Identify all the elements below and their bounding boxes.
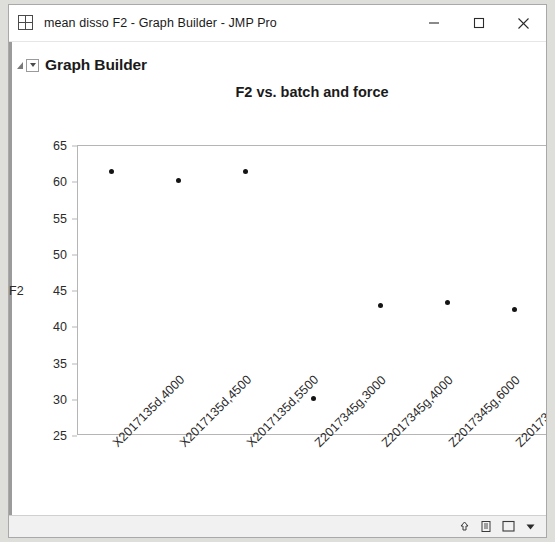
y-axis-tick-label: 30 xyxy=(53,393,67,407)
data-point[interactable] xyxy=(109,169,114,174)
y-axis-tick-label: 50 xyxy=(53,248,67,262)
y-axis-tick-mark xyxy=(72,291,77,292)
outline-header[interactable]: Graph Builder xyxy=(17,55,147,75)
y-axis-tick-label: 65 xyxy=(53,139,67,153)
y-axis-tick-label: 60 xyxy=(53,175,67,189)
y-axis-tick-mark xyxy=(72,254,77,255)
jmp-window: mean disso F2 - Graph Builder - JMP Pro xyxy=(8,4,547,538)
title-bar: mean disso F2 - Graph Builder - JMP Pro xyxy=(9,5,546,42)
outline-title: Graph Builder xyxy=(45,56,147,74)
maximize-button[interactable] xyxy=(456,5,501,41)
red-triangle-menu-icon[interactable] xyxy=(26,59,39,72)
page-icon[interactable] xyxy=(476,518,496,535)
minimize-button[interactable] xyxy=(411,5,456,41)
report-content: Graph Builder F2 vs. batch and force F2 … xyxy=(9,42,546,515)
chart-title: F2 vs. batch and force xyxy=(77,84,546,100)
dropdown-triangle-icon[interactable] xyxy=(520,518,540,535)
y-axis-tick-mark xyxy=(72,399,77,400)
y-axis: F2 253035404550556065 xyxy=(9,145,77,436)
y-axis-tick-mark xyxy=(72,218,77,219)
close-button[interactable] xyxy=(501,5,546,41)
y-axis-tick-mark xyxy=(72,363,77,364)
y-axis-title: F2 xyxy=(9,284,24,298)
status-bar xyxy=(9,515,546,537)
window-title: mean disso F2 - Graph Builder - JMP Pro xyxy=(44,16,277,30)
data-point[interactable] xyxy=(378,303,383,308)
data-point[interactable] xyxy=(311,396,316,401)
data-point[interactable] xyxy=(243,169,248,174)
data-point[interactable] xyxy=(445,300,450,305)
square-icon[interactable] xyxy=(498,518,518,535)
y-axis-tick-mark xyxy=(72,146,77,147)
data-point[interactable] xyxy=(176,178,181,183)
y-axis-tick-mark xyxy=(72,182,77,183)
y-axis-tick-label: 35 xyxy=(53,357,67,371)
data-table-icon xyxy=(18,15,34,31)
disclosure-triangle-icon[interactable] xyxy=(17,62,23,69)
y-axis-tick-label: 45 xyxy=(53,284,67,298)
x-axis: X2017135d,4000X2017135d,4500X2017135d,55… xyxy=(9,436,545,515)
y-axis-tick-label: 55 xyxy=(53,212,67,226)
outline-title-text: Graph Builder xyxy=(45,56,147,73)
y-axis-tick-mark xyxy=(72,327,77,328)
data-point[interactable] xyxy=(512,307,517,312)
graph-builder-chart: F2 vs. batch and force F2 25303540455055… xyxy=(9,78,545,515)
up-arrow-icon[interactable] xyxy=(454,518,474,535)
y-axis-tick-label: 40 xyxy=(53,320,67,334)
